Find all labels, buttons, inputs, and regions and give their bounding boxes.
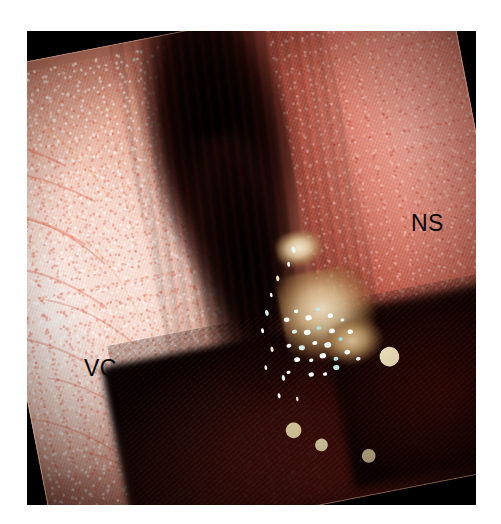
- annotation-label-vc: VC: [84, 357, 117, 380]
- endoscopic-photo: [27, 31, 476, 505]
- annotation-label-ns: NS: [411, 212, 444, 235]
- figure-canvas: NS VC: [0, 0, 501, 524]
- photo-edge-rim: [27, 31, 476, 505]
- endoscopic-photo-frame: NS VC: [27, 31, 476, 505]
